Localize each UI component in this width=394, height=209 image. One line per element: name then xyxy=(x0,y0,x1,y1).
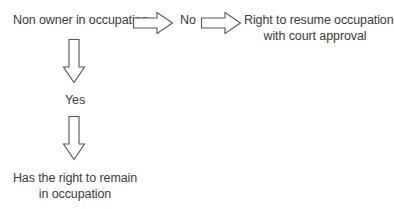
no-outcome-node: Right to resume occupation with court ap… xyxy=(244,12,386,44)
yes-outcome-line2: in occupation xyxy=(5,186,145,202)
arrow-down-icon xyxy=(63,39,85,83)
branch-yes-label: Yes xyxy=(45,92,105,108)
arrow-right-icon xyxy=(133,12,173,34)
branch-no-label: No xyxy=(180,12,196,28)
arrow-right-icon xyxy=(201,12,241,34)
no-outcome-line2: with court approval xyxy=(244,28,386,44)
yes-outcome-line1: Has the right to remain xyxy=(5,170,145,186)
yes-outcome-node: Has the right to remain in occupation xyxy=(5,170,145,202)
arrow-down-icon xyxy=(63,116,85,160)
no-outcome-line1: Right to resume occupation xyxy=(244,12,386,28)
start-node-label: Non owner in occupation xyxy=(13,12,148,28)
